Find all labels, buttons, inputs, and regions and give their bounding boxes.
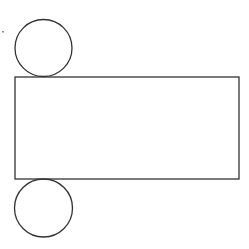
stray-mark — [2, 31, 4, 33]
top-base-circle — [15, 20, 72, 77]
bottom-base-circle — [15, 179, 73, 237]
cylinder-net-diagram — [0, 0, 249, 249]
lateral-surface-rectangle — [15, 77, 239, 179]
